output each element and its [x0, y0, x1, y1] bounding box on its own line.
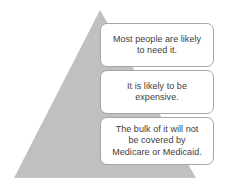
- callout-box-1-label: Most people are likely to need it.: [105, 34, 209, 57]
- callout-box-3-label: The bulk of it will not be covered by Me…: [105, 124, 209, 159]
- callout-box-3: The bulk of it will not be covered by Me…: [100, 117, 214, 165]
- callout-box-2: It is likely to be expensive.: [100, 70, 214, 114]
- callout-box-1: Most people are likely to need it.: [100, 23, 214, 67]
- callout-box-2-label: It is likely to be expensive.: [105, 81, 209, 104]
- pyramid-diagram: Most people are likely to need it. It is…: [0, 0, 228, 190]
